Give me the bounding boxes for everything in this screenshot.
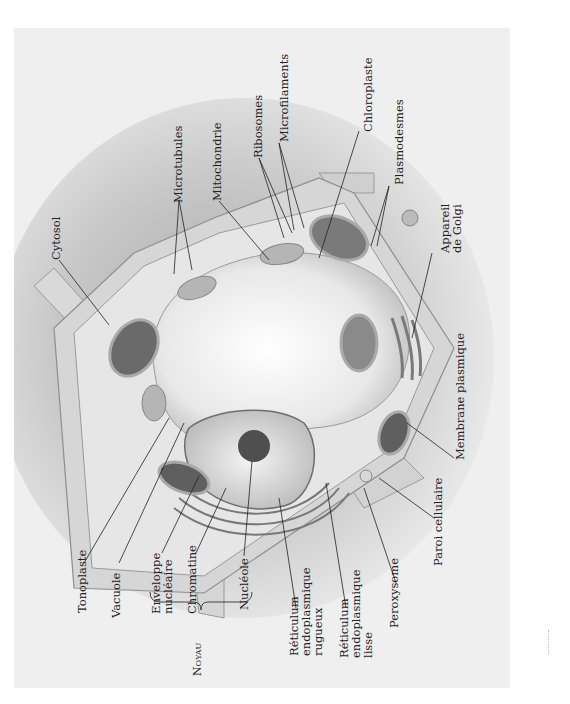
label-rel-line3: lisse bbox=[362, 568, 374, 658]
label-cytosol: Cytosol bbox=[50, 217, 62, 260]
label-membrane-plasmique: Membrane plasmique bbox=[454, 333, 466, 460]
label-rer-line3: rugueux bbox=[312, 566, 324, 656]
figure-frame: Cytosol Microtubules Mitochondrie Riboso… bbox=[14, 28, 510, 688]
label-ribosomes: Ribosomes bbox=[252, 95, 264, 158]
nucleolus bbox=[238, 430, 270, 462]
label-noyau: Noyau bbox=[192, 643, 204, 676]
label-microtubules: Microtubules bbox=[172, 126, 184, 204]
label-reticulum-rugueux: Réticulum endoplasmique rugueux bbox=[288, 566, 324, 656]
label-plasmodesmes: Plasmodesmes bbox=[393, 99, 405, 185]
label-vacuole: Vacuole bbox=[110, 573, 122, 618]
label-mitochondrie: Mitochondrie bbox=[211, 122, 223, 201]
noyau-brace bbox=[146, 588, 256, 648]
label-golgi-line2: de Golgi bbox=[451, 193, 463, 253]
label-chloroplaste: Chloroplaste bbox=[362, 58, 374, 132]
label-reticulum-lisse: Réticulum endoplasmique lisse bbox=[338, 568, 374, 658]
label-paroi-cellulaire: Paroi cellulaire bbox=[432, 478, 444, 566]
page-margin-mark bbox=[548, 630, 552, 654]
label-appareil-golgi: Appareil de Golgi bbox=[439, 193, 463, 253]
label-peroxysome: Peroxysome bbox=[388, 558, 400, 628]
label-microfilaments: Microfilaments bbox=[278, 54, 290, 142]
peroxisome bbox=[360, 470, 372, 482]
label-tonoplaste: Tonoplaste bbox=[76, 550, 88, 613]
plasmodesmata bbox=[402, 210, 418, 226]
